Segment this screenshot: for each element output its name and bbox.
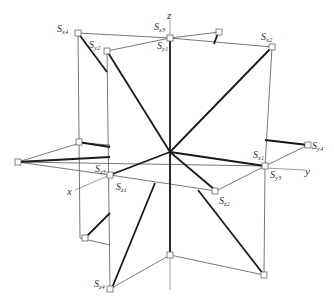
label-Sx3: Sx3 xyxy=(154,21,166,33)
node-Sx3-Sy1 xyxy=(167,35,173,41)
node-Sx1-Sy3 xyxy=(262,163,268,169)
label-Sx1: Sx1 xyxy=(253,149,264,161)
label-Sy2: Sy2 xyxy=(89,39,101,51)
diagram-canvas: z x y Sx4 Sy2 Sx3 Sy1 Sx2 Sz3 Sz1 Sx1 Sy… xyxy=(0,0,334,302)
node-lower-left xyxy=(82,235,88,241)
node-Sy2 xyxy=(104,48,110,54)
label-Sx2: Sx2 xyxy=(261,31,273,43)
label-Sz3: Sz3 xyxy=(95,163,107,175)
node-back xyxy=(216,29,222,35)
label-Sy4: Sy4 xyxy=(312,140,324,152)
label-Sy3: Sy3 xyxy=(270,169,282,181)
node-Sx4 xyxy=(75,30,81,36)
node-Sy4 xyxy=(305,142,311,148)
node-far-left xyxy=(15,159,21,165)
label-Sx4: Sx4 xyxy=(57,23,69,35)
node-bottom-right xyxy=(261,272,267,278)
node-Sz4 xyxy=(107,286,113,292)
vertical-planes xyxy=(78,32,272,289)
node-Sz2 xyxy=(212,188,218,194)
node-bottom-center xyxy=(167,252,173,258)
label-Sz4-bottom: Sz4 xyxy=(94,278,106,290)
structure-diagram: z x y Sx4 Sy2 Sx3 Sy1 Sx2 Sz3 Sz1 Sx1 Sy… xyxy=(0,0,334,302)
z-axis-label: z xyxy=(166,9,172,21)
x-axis-label: x xyxy=(66,185,72,197)
node-Sx2 xyxy=(269,44,275,50)
node-left-mid xyxy=(76,139,82,145)
y-axis-label: y xyxy=(304,165,310,177)
label-Sz2: Sz2 xyxy=(219,195,231,207)
node-Sz3-Sz1 xyxy=(107,172,113,178)
x-axis xyxy=(75,175,110,190)
label-Sz1: Sz1 xyxy=(116,181,127,193)
label-Sy1: Sy1 xyxy=(157,40,168,52)
